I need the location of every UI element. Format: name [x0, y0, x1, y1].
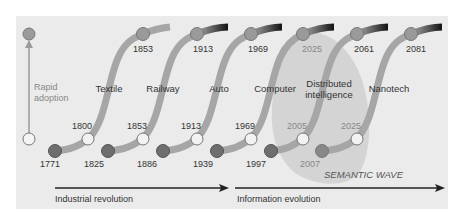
semantic-wave-label: SEMANTIC WAVE	[324, 169, 404, 180]
start-year: 1771	[40, 159, 60, 169]
rapid-adoption-label-1: Rapid	[34, 82, 58, 92]
wave-top-marker	[405, 28, 418, 41]
wave-mid-marker	[191, 133, 203, 145]
mid-year: 1913	[181, 121, 201, 131]
wave-label: Auto	[209, 83, 229, 94]
wave-label: Railway	[146, 83, 180, 94]
start-year: 2007	[300, 159, 320, 169]
wave-top-marker	[245, 28, 258, 41]
wave-label-line2: intelligence	[305, 89, 353, 100]
top-year: 2081	[406, 44, 426, 54]
wave-top-marker	[137, 28, 150, 41]
wave-top-marker	[191, 28, 204, 41]
high-adoption-circle	[23, 28, 35, 40]
wave-start-marker	[211, 145, 224, 158]
wave-top-marker	[297, 28, 310, 41]
start-year: 1886	[137, 159, 157, 169]
mid-year: 2005	[287, 121, 307, 131]
wave-mid-marker	[245, 133, 257, 145]
wave-mid-marker	[351, 133, 363, 145]
wave-label: Textile	[96, 83, 123, 94]
wave-start-marker	[316, 145, 329, 158]
rapid-adoption-label-2: adoption	[34, 93, 69, 103]
start-year: 1939	[193, 159, 213, 169]
mid-year: 2025	[341, 121, 361, 131]
wave-label-line1: Distributed	[306, 78, 351, 89]
wave-start-marker	[265, 145, 278, 158]
start-year: 1997	[246, 159, 266, 169]
era-label: Industrial revolution	[55, 194, 133, 204]
mid-year: 1800	[72, 121, 92, 131]
wave-label: Nanotech	[369, 83, 410, 94]
top-year: 2025	[302, 44, 322, 54]
top-year: 1969	[248, 44, 268, 54]
top-year: 1853	[133, 44, 153, 54]
wave-label: Computer	[254, 83, 296, 94]
top-year: 1913	[193, 44, 213, 54]
wave-start-marker	[157, 145, 170, 158]
wave-mid-marker	[137, 133, 149, 145]
wave-start-marker	[49, 145, 62, 158]
low-adoption-circle	[23, 133, 35, 145]
start-year: 1825	[84, 159, 104, 169]
era-label: Information evolution	[237, 194, 321, 204]
wave-mid-marker	[82, 133, 94, 145]
top-year: 2061	[354, 44, 374, 54]
wave-top-marker	[351, 28, 364, 41]
mid-year: 1853	[127, 121, 147, 131]
wave-start-marker	[102, 145, 115, 158]
technology-waves-diagram: Rapid adoption 1771 1800 1853 Textile 18…	[0, 0, 465, 223]
wave-mid-marker	[297, 133, 309, 145]
mid-year: 1969	[235, 121, 255, 131]
